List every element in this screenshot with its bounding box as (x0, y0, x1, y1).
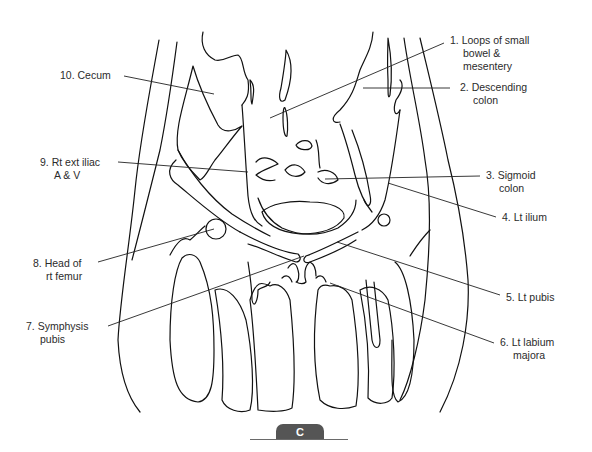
leader-3 (325, 176, 480, 179)
leader-1 (270, 43, 444, 118)
label-6-line1: 6. Lt labium (500, 336, 554, 348)
label-1-line2: bowel & (450, 47, 529, 60)
right-thigh-muscle-1 (170, 255, 214, 402)
panel-letter-tab: C (276, 424, 324, 439)
label-8-head-rt-femur: 8. Head of rt femur (33, 257, 82, 283)
label-10-cecum: 10. Cecum (60, 69, 111, 82)
right-ilium (177, 66, 242, 180)
left-thigh-muscle-1 (392, 262, 414, 402)
label-4-line1: 4. Lt ilium (502, 211, 547, 223)
label-3-line2: colon (486, 182, 536, 195)
right-thigh-muscle-2 (215, 289, 253, 412)
label-10-line1: 10. Cecum (60, 69, 111, 81)
label-7-symphysis-pubis: 7. Symphysis pubis (26, 320, 88, 346)
label-2-descending-colon: 2. Descending colon (460, 81, 527, 107)
left-adductor (315, 285, 359, 408)
label-9-rt-ext-iliac: 9. Rt ext iliac A & V (40, 156, 100, 182)
labia (288, 262, 316, 284)
label-9-line2: A & V (40, 169, 100, 182)
label-1-loops-small-bowel: 1. Loops of small bowel & mesentery (450, 34, 529, 73)
right-adductor (250, 283, 294, 411)
bladder-outline (262, 201, 344, 234)
label-7-line2: pubis (26, 333, 88, 346)
label-5-line1: 5. Lt pubis (506, 291, 554, 303)
leader-10 (124, 76, 214, 94)
label-9-line1: 9. Rt ext iliac (40, 156, 100, 168)
right-body-contour-outer (118, 40, 159, 412)
left-femoral-head (378, 214, 390, 226)
label-3-line1: 3. Sigmoid (486, 169, 536, 181)
pelvic-inlet (258, 198, 356, 234)
label-6-lt-labium-majora: 6. Lt labium majora (500, 336, 554, 362)
label-3-sigmoid-colon: 3. Sigmoid colon (486, 169, 536, 195)
label-1-line3: mesentery (450, 60, 529, 73)
label-2-line2: colon (460, 94, 527, 107)
left-body-contour-inner (400, 38, 430, 400)
leader-7 (108, 256, 304, 326)
label-6-line2: majora (500, 349, 554, 362)
label-4-lt-ilium: 4. Lt ilium (502, 211, 547, 224)
label-2-line1: 2. Descending (460, 81, 527, 93)
right-body-contour-inner (132, 42, 177, 260)
leader-5 (337, 242, 500, 295)
right-femoral-head (206, 219, 226, 239)
leader-4 (388, 183, 496, 217)
panel-tab-rule (250, 439, 348, 440)
leader-6 (330, 283, 494, 343)
label-1-line1: 1. Loops of small (450, 34, 529, 46)
label-8-line2: rt femur (33, 270, 82, 283)
label-5-lt-pubis: 5. Lt pubis (506, 291, 554, 304)
label-8-line1: 8. Head of (33, 257, 81, 269)
label-7-line1: 7. Symphysis (26, 320, 88, 332)
